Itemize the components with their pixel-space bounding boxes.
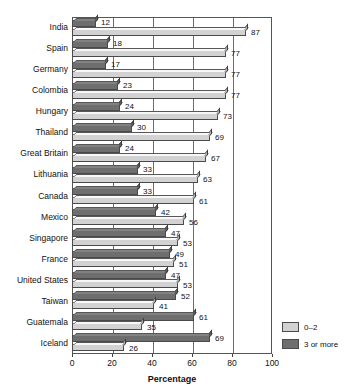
legend-label: 0–2 xyxy=(304,323,317,332)
bar-group: United States4753 xyxy=(72,270,272,291)
bar-value-label: 53 xyxy=(183,282,192,290)
legend-item: 3 or more xyxy=(282,339,348,349)
bar-group: France4951 xyxy=(72,249,272,270)
category-label: India xyxy=(0,19,68,36)
category-label: Lithuania xyxy=(0,166,68,183)
bar-dark xyxy=(72,209,156,216)
x-axis-tick xyxy=(192,354,193,357)
bar-dark xyxy=(72,125,132,132)
bar-value-label: 17 xyxy=(111,61,120,69)
x-axis-tick xyxy=(72,354,73,357)
x-axis-tick xyxy=(232,354,233,357)
category-label: Iceland xyxy=(0,335,68,352)
bar-group: Taiwan5241 xyxy=(72,291,272,312)
bar-group: Lithuania3363 xyxy=(72,164,272,185)
category-label: Taiwan xyxy=(0,293,68,310)
bar-group: Canada3361 xyxy=(72,186,272,207)
bar-value-label: 87 xyxy=(251,29,260,37)
bar-group: Iceland6926 xyxy=(72,333,272,354)
bar-group: Hungary2473 xyxy=(72,101,272,122)
bar-value-label: 41 xyxy=(159,303,168,311)
bar-light xyxy=(72,302,154,309)
bar-light xyxy=(72,197,194,204)
chart-legend: 0–23 or more xyxy=(282,322,348,356)
bar-light xyxy=(72,323,142,330)
bar-light xyxy=(72,239,178,246)
bar-value-label: 77 xyxy=(231,71,240,79)
x-axis-tick-label: 60 xyxy=(187,358,196,368)
bar-light xyxy=(72,71,226,78)
bar-value-label: 18 xyxy=(113,40,122,48)
bar-value-label: 26 xyxy=(129,345,138,353)
bar-value-label: 23 xyxy=(123,82,132,90)
category-label: Guatemala xyxy=(0,314,68,331)
x-axis-tick-label: 100 xyxy=(265,358,279,368)
x-axis-tick xyxy=(272,354,273,357)
category-label: Singapore xyxy=(0,230,68,247)
bar-light xyxy=(72,50,226,57)
x-axis-tick-label: 40 xyxy=(147,358,156,368)
category-label: Spain xyxy=(0,40,68,57)
category-label: Germany xyxy=(0,61,68,78)
bar-dark xyxy=(72,83,118,90)
bar-value-label: 67 xyxy=(211,155,220,163)
bar-value-label: 73 xyxy=(223,113,232,121)
bar-light xyxy=(72,113,218,120)
bar-value-label: 77 xyxy=(231,92,240,100)
bar-light xyxy=(72,29,246,36)
bar-group: Guatemala6135 xyxy=(72,312,272,333)
chart-title xyxy=(0,0,350,3)
bar-value-label: 35 xyxy=(147,324,156,332)
bar-light xyxy=(72,176,198,183)
bar-value-label: 77 xyxy=(231,50,240,58)
category-label: France xyxy=(0,251,68,268)
bar-light xyxy=(72,134,210,141)
category-label: Colombia xyxy=(0,82,68,99)
bar-group: Singapore4753 xyxy=(72,228,272,249)
x-axis-label: Percentage xyxy=(72,374,272,384)
bar-group: Mexico4256 xyxy=(72,207,272,228)
x-axis-tick xyxy=(152,354,153,357)
x-axis-tick xyxy=(112,354,113,357)
bar-value-label: 61 xyxy=(199,314,208,322)
category-label: Hungary xyxy=(0,103,68,120)
bar-value-label: 53 xyxy=(183,240,192,248)
x-axis-tick-label: 80 xyxy=(227,358,236,368)
bar-dark xyxy=(72,188,138,195)
bar-value-label: 52 xyxy=(181,293,190,301)
bar-light xyxy=(72,92,226,99)
bar-light xyxy=(72,260,174,267)
bar-dark xyxy=(72,167,138,174)
bar-group: India1287 xyxy=(72,17,272,38)
category-label: Canada xyxy=(0,188,68,205)
bar-group: Germany1777 xyxy=(72,59,272,80)
bar-value-label: 69 xyxy=(215,134,224,142)
bar-dark xyxy=(72,104,120,111)
bar-value-label: 56 xyxy=(189,219,198,227)
legend-swatch xyxy=(282,339,299,349)
category-label: Great Britain xyxy=(0,145,68,162)
bar-value-label: 69 xyxy=(215,335,224,343)
category-label: Mexico xyxy=(0,209,68,226)
category-label: Thailand xyxy=(0,124,68,141)
bar-value-label: 51 xyxy=(179,261,188,269)
x-axis: 020406080100 xyxy=(72,354,272,368)
bar-group: Spain1877 xyxy=(72,38,272,59)
bar-dark xyxy=(72,41,108,48)
bar-dark xyxy=(72,62,106,69)
bar-value-label: 63 xyxy=(203,176,212,184)
bar-group: Thailand3069 xyxy=(72,122,272,143)
bar-dark xyxy=(72,20,96,27)
bar-light xyxy=(72,281,178,288)
legend-swatch xyxy=(282,322,299,332)
bar-rows-container: India1287Spain1877Germany1777Colombia237… xyxy=(72,17,272,354)
x-axis-tick-label: 0 xyxy=(70,358,75,368)
bar-value-label: 12 xyxy=(101,19,110,27)
bar-light xyxy=(72,344,124,351)
x-axis-tick-label: 20 xyxy=(107,358,116,368)
bar-value-label: 61 xyxy=(199,198,208,206)
bar-dark xyxy=(72,146,120,153)
bar-group: Great Britain2467 xyxy=(72,143,272,164)
legend-label: 3 or more xyxy=(304,340,338,349)
bar-group: Colombia2377 xyxy=(72,80,272,101)
